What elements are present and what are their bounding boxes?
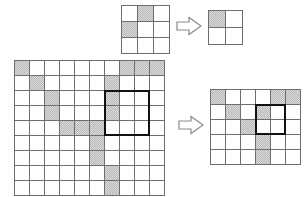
grid-cell: [135, 76, 150, 91]
grid-cell-shaded: [30, 76, 45, 91]
grid-cell: [15, 166, 30, 181]
grid-cell: [75, 181, 90, 196]
grid-cell: [45, 151, 60, 166]
grid-cell: [138, 22, 154, 38]
top-arrow-icon: [176, 16, 202, 36]
grid-cell-shaded: [256, 150, 271, 165]
grid-cell: [122, 38, 138, 54]
grid-cell: [90, 76, 105, 91]
grid-cell: [90, 181, 105, 196]
grid-cell: [60, 91, 75, 106]
grid-cell: [241, 105, 256, 120]
grid-cell: [150, 91, 165, 106]
grid-cell-shaded: [138, 6, 154, 22]
grid-cell: [120, 106, 135, 121]
grid-cell: [286, 105, 301, 120]
grid-cell: [60, 181, 75, 196]
grid-cell: [271, 150, 286, 165]
grid-cell: [226, 135, 241, 150]
grid-cell: [138, 38, 154, 54]
grid-cell: [75, 151, 90, 166]
large-result-grid: [210, 89, 301, 165]
grid-cell: [90, 106, 105, 121]
grid-cell: [150, 151, 165, 166]
grid-cell: [226, 150, 241, 165]
grid-cell: [15, 106, 30, 121]
grid-cell-shaded: [105, 106, 120, 121]
grid-cell: [150, 76, 165, 91]
grid-cell: [45, 181, 60, 196]
grid-cell: [286, 120, 301, 135]
grid-cell: [154, 22, 170, 38]
grid-cell: [75, 61, 90, 76]
grid-cell: [45, 121, 60, 136]
grid-cell: [75, 76, 90, 91]
grid-cell: [209, 28, 226, 45]
grid-cell: [211, 120, 226, 135]
grid-cell: [271, 135, 286, 150]
grid-cell: [45, 76, 60, 91]
grid-cell: [154, 6, 170, 22]
grid-cell: [120, 121, 135, 136]
grid-cell-shaded: [211, 90, 226, 105]
grid-cell-shaded: [90, 136, 105, 151]
grid-cell: [226, 28, 243, 45]
grid-cell: [120, 166, 135, 181]
grid-cell: [135, 106, 150, 121]
grid-cell: [30, 136, 45, 151]
grid-cell: [120, 91, 135, 106]
grid-cell: [226, 11, 243, 28]
grid-cell-shaded: [75, 121, 90, 136]
grid-cell: [135, 121, 150, 136]
grid-cell-shaded: [90, 151, 105, 166]
grid-cell: [30, 151, 45, 166]
grid-cell: [75, 166, 90, 181]
grid-cell: [60, 106, 75, 121]
figure-canvas: [0, 0, 308, 197]
grid-cell: [271, 120, 286, 135]
grid-cell: [256, 120, 271, 135]
grid-cell: [30, 91, 45, 106]
grid-cell-shaded: [45, 106, 60, 121]
grid-cell-shaded: [105, 76, 120, 91]
grid-cell: [60, 166, 75, 181]
grid-cell: [271, 105, 286, 120]
grid-cell-shaded: [209, 11, 226, 28]
grid-cell: [45, 61, 60, 76]
grid-cell: [90, 61, 105, 76]
grid-cell: [135, 181, 150, 196]
grid-cell: [105, 151, 120, 166]
grid-cell: [15, 76, 30, 91]
grid-cell-shaded: [15, 61, 30, 76]
grid-cell: [211, 150, 226, 165]
grid-cell: [15, 151, 30, 166]
grid-cell: [30, 121, 45, 136]
grid-cell-shaded: [286, 90, 301, 105]
grid-cell: [45, 136, 60, 151]
small-result-grid: [208, 10, 243, 45]
grid-cell: [75, 91, 90, 106]
grid-cell: [154, 38, 170, 54]
grid-cell: [150, 121, 165, 136]
grid-cell: [211, 105, 226, 120]
grid-cell: [30, 166, 45, 181]
grid-cell-shaded: [135, 61, 150, 76]
grid-cell-shaded: [45, 91, 60, 106]
grid-cell: [30, 106, 45, 121]
grid-cell: [150, 166, 165, 181]
grid-cell-shaded: [256, 105, 271, 120]
grid-cell: [15, 91, 30, 106]
grid-cell: [135, 136, 150, 151]
grid-cell: [135, 166, 150, 181]
grid-cell: [120, 76, 135, 91]
grid-cell-shaded: [122, 22, 138, 38]
grid-cell: [60, 136, 75, 151]
grid-cell: [256, 90, 271, 105]
grid-cell: [75, 106, 90, 121]
grid-cell-shaded: [241, 120, 256, 135]
grid-cell-shaded: [105, 91, 120, 106]
grid-cell: [15, 181, 30, 196]
grid-cell: [150, 106, 165, 121]
grid-cell: [15, 121, 30, 136]
grid-cell-shaded: [120, 61, 135, 76]
